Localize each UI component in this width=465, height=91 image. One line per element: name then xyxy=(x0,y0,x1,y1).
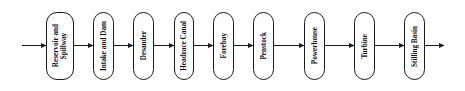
node-label: Desander xyxy=(140,31,148,60)
node-label: Forebay xyxy=(220,33,228,58)
node-label: Headrace Canal xyxy=(180,21,188,71)
node-stilling-basin: Stilling Basin xyxy=(404,12,425,80)
node-label: Penstock xyxy=(260,32,268,60)
node-label: Powerhouse xyxy=(311,27,319,64)
node-label: Turbine xyxy=(361,34,369,59)
node-powerhouse: Powerhouse xyxy=(304,12,325,80)
node-turbine: Turbine xyxy=(354,12,375,80)
node-label: Intake and Dam xyxy=(100,21,108,71)
node-label: Stilling Basin xyxy=(411,26,419,67)
node-forebay: Forebay xyxy=(213,12,234,80)
node-reservoir-and-spillway: Reservoir and Spillway xyxy=(46,12,74,80)
hydropower-flow-diagram: Reservoir and Spillway Intake and Dam De… xyxy=(0,0,465,91)
node-label: Reservoir and Spillway xyxy=(52,24,68,67)
node-desander: Desander xyxy=(133,12,154,80)
node-intake-and-dam: Intake and Dam xyxy=(93,12,114,80)
node-penstock: Penstock xyxy=(253,12,274,80)
node-headrace-canal: Headrace Canal xyxy=(174,12,194,80)
